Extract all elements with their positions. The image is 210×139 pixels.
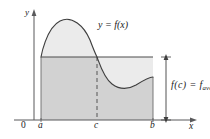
average-value-measure-arrow [161, 54, 171, 123]
origin-label: 0 [21, 121, 26, 131]
y-axis [32, 9, 37, 120]
tick-label-c: c [94, 121, 98, 131]
average-value-label-subscript: ave [203, 84, 210, 91]
average-value-label-main: f(c) = f [171, 79, 203, 90]
x-axis-label: x [189, 122, 193, 132]
curve-equation-label: y = f(x) [98, 20, 128, 30]
tick-label-b: b [150, 121, 155, 131]
average-value-integral-figure: y x 0 a c b y = f(x) f(c) = fave [0, 0, 210, 139]
average-value-label: f(c) = fave [171, 80, 210, 92]
y-axis-label: y [25, 8, 29, 17]
tick-label-a: a [38, 121, 43, 131]
